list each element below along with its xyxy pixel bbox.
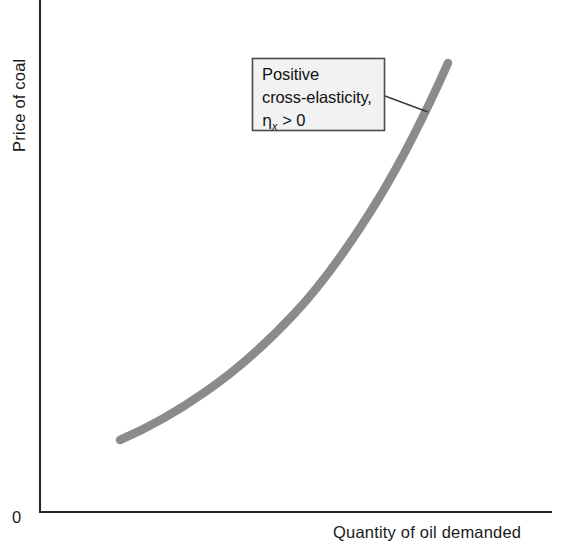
- x-axis-label-text: Quantity of oil demanded: [333, 523, 521, 541]
- eta-relation: > 0: [277, 111, 305, 129]
- origin-label: 0: [12, 508, 21, 527]
- y-axis-label-text: Price of coal: [10, 59, 28, 152]
- annotation-line-2: cross-elasticity,: [262, 86, 380, 109]
- annotation-leader-line: [385, 96, 428, 112]
- chart-figure: Price of coal Quantity of oil demanded 0…: [0, 0, 568, 560]
- annotation-line-3: ηx> 0: [262, 109, 380, 138]
- annotation-text: Positive cross-elasticity, ηx> 0: [262, 63, 380, 138]
- annotation-line-1: Positive: [262, 63, 380, 86]
- x-axis-label: Quantity of oil demanded: [333, 523, 521, 542]
- eta-symbol: η: [262, 111, 272, 130]
- origin-label-text: 0: [12, 508, 21, 526]
- y-axis-label: Price of coal: [10, 0, 29, 152]
